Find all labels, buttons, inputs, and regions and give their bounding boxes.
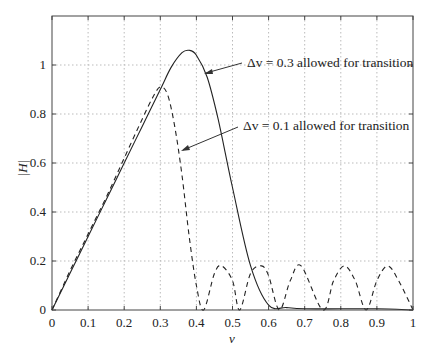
annotation-arrow-dashed [181, 127, 238, 151]
y-tick-label: 1 [40, 57, 47, 72]
y-axis-label: |H| [15, 160, 30, 177]
chart: 00.10.20.30.40.50.60.70.80.9100.20.40.60… [0, 0, 430, 349]
x-tick-label: 0.1 [80, 315, 96, 330]
x-tick-label: 0.5 [224, 315, 240, 330]
annotation-dashed: Δv = 0.1 allowed for transition [243, 118, 410, 133]
x-tick-label: 1 [410, 315, 417, 330]
x-tick-label: 0.4 [188, 315, 205, 330]
x-tick-label: 0 [49, 315, 56, 330]
x-tick-label: 0.8 [333, 315, 349, 330]
annotation-arrow-solid [204, 63, 242, 74]
y-tick-label: 0.4 [30, 204, 47, 219]
annotation-solid: Δv = 0.3 allowed for transition [247, 55, 414, 70]
x-tick-label: 0.6 [260, 315, 277, 330]
x-axis-label: v [229, 331, 235, 346]
x-tick-label: 0.2 [116, 315, 132, 330]
y-tick-label: 0.6 [30, 155, 47, 170]
y-tick-label: 0.8 [30, 106, 46, 121]
x-tick-label: 0.3 [152, 315, 168, 330]
x-tick-label: 0.7 [297, 315, 314, 330]
y-tick-label: 0 [40, 302, 47, 317]
x-tick-label: 0.9 [369, 315, 385, 330]
y-tick-label: 0.2 [30, 253, 46, 268]
